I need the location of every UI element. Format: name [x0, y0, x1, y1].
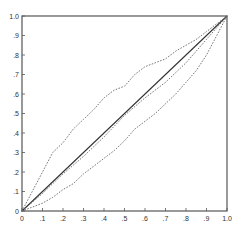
y-tick-label: 0: [15, 208, 19, 215]
x-tick-label: .8: [183, 215, 189, 222]
series-diagonal: [22, 16, 227, 211]
x-tick-label: .9: [204, 215, 210, 222]
y-tick-label: .3: [13, 149, 19, 156]
x-tick-label: .1: [40, 215, 46, 222]
y-tick-label: .7: [13, 71, 19, 78]
x-tick-label: .6: [142, 215, 148, 222]
x-tick-label: 1.0: [222, 215, 232, 222]
y-tick-label: .5: [13, 110, 19, 117]
y-tick-label: .8: [13, 52, 19, 59]
y-tick-label: .6: [13, 91, 19, 98]
chart: 0.1.2.3.4.5.6.7.8.91.00.1.2.3.4.5.6.7.8.…: [0, 0, 243, 228]
y-tick-label: .9: [13, 32, 19, 39]
x-tick-label: .2: [60, 215, 66, 222]
x-tick-label: .4: [101, 215, 107, 222]
x-tick-label: .7: [163, 215, 169, 222]
y-tick-label: .2: [13, 169, 19, 176]
x-tick-label: 0: [20, 215, 24, 222]
x-tick-label: .5: [122, 215, 128, 222]
y-tick-label: .1: [13, 188, 19, 195]
x-tick-label: .3: [81, 215, 87, 222]
y-tick-label: 1.0: [9, 13, 19, 20]
y-tick-label: .4: [13, 130, 19, 137]
